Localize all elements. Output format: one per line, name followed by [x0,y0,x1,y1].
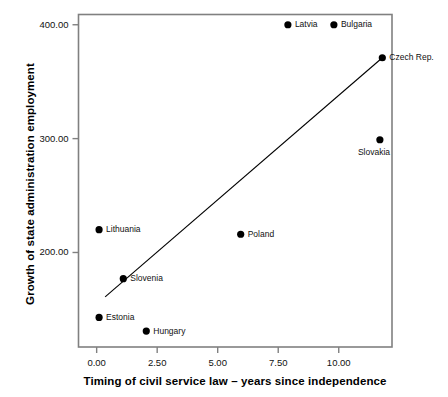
y-axis-title: Growth of state administration employmen… [24,19,36,349]
data-point-marker [237,231,244,238]
data-point-marker [379,54,386,61]
x-axis-tick-label: 5.00 [194,357,242,368]
point-label-estonia: Estonia [106,312,134,322]
trend-line [105,58,382,297]
data-point-marker [376,136,383,143]
x-axis-tick-label: 0.00 [73,357,121,368]
plot-canvas [0,0,448,397]
x-axis-tick-label: 7.50 [254,357,302,368]
scatter-plot-figure: Growth of state administration employmen… [0,0,448,397]
point-label-lithuania: Lithuania [106,224,141,234]
data-point-marker [95,314,102,321]
x-axis-title: Timing of civil service law – years sinc… [78,375,392,387]
x-axis-tick-label: 2.50 [133,357,181,368]
axis-tick-marks [73,25,339,353]
x-axis-tick-label: 10.00 [315,357,363,368]
data-point-marker [284,21,291,28]
data-point-marker [95,226,102,233]
data-point-marker [120,275,127,282]
point-label-slovenia: Slovenia [130,273,163,283]
plot-border [79,15,393,348]
point-label-poland: Poland [248,229,274,239]
data-point-marker [330,21,337,28]
y-axis-tick-label: 400.00 [21,19,69,30]
fit-line-segment [105,58,382,297]
point-label-bulgaria: Bulgaria [341,19,372,29]
point-label-czech-rep: Czech Rep. [389,52,433,62]
data-points [95,21,385,335]
y-axis-tick-label: 300.00 [21,133,69,144]
y-axis-tick-label: 200.00 [21,246,69,257]
point-label-hungary: Hungary [153,326,185,336]
data-point-marker [143,327,150,334]
plot-frame [79,15,393,348]
point-label-slovakia: Slovakia [358,147,390,157]
point-label-latvia: Latvia [295,19,318,29]
